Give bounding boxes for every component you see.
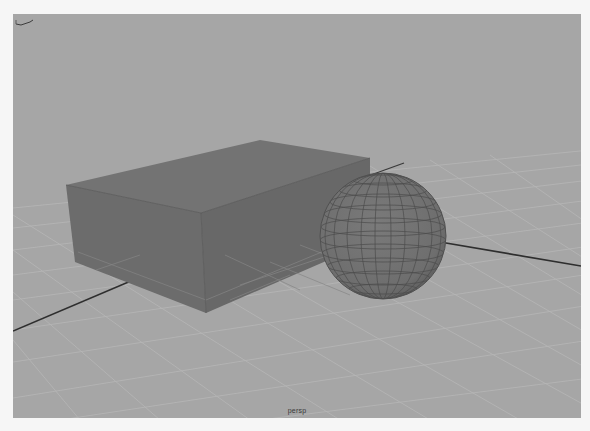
sphere-object[interactable] [320,173,446,299]
scene-canvas[interactable] [13,14,581,418]
x-axis-line-right [440,242,581,266]
perspective-viewport[interactable]: persp [13,14,581,418]
window-frame: persp [0,0,590,431]
camera-name-label: persp [13,407,581,414]
axis-orientation-icon [13,14,37,28]
